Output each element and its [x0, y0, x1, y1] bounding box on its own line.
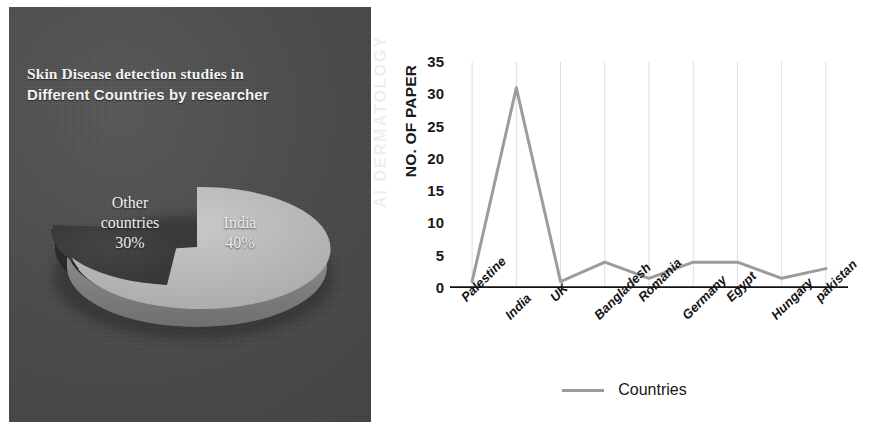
x-tick-india: India	[502, 291, 534, 323]
gridlines	[472, 62, 826, 288]
y-tick-25: 25	[416, 120, 444, 134]
pie-label-india: India 40%	[194, 213, 286, 253]
line-chart-plot-area	[450, 62, 848, 288]
pie-label-other-countries: Other countries 30%	[71, 193, 189, 253]
line-chart-svg	[450, 62, 848, 288]
pie-chart-panel: Skin Disease detection studies in Differ…	[9, 7, 371, 422]
legend-line-swatch	[562, 389, 604, 392]
y-tick-30: 30	[416, 87, 444, 101]
chart-legend: Countries	[380, 381, 869, 399]
figure-root: Skin Disease detection studies in Differ…	[0, 0, 869, 429]
pie-chart-title: Skin Disease detection studies in Differ…	[27, 63, 357, 105]
pie-label-other-name-1: Other	[71, 193, 189, 213]
pie-title-line-2: Different Countries by researcher	[27, 84, 357, 105]
pie-graphic: Other countries 30% India 40%	[9, 125, 371, 375]
y-axis-tick-labels: 05101520253035	[416, 62, 444, 288]
watermark-text: AI DERMATOLOGY	[372, 18, 402, 208]
line-chart-panel: AI DERMATOLOGY NO. OF PAPER 051015202530…	[380, 0, 869, 429]
y-tick-5: 5	[416, 249, 444, 263]
y-tick-10: 10	[416, 216, 444, 230]
legend-label-countries: Countries	[618, 381, 686, 399]
y-tick-35: 35	[416, 55, 444, 69]
x-axis-tick-labels: PalestineIndiaUKBangladeshRomaniaGermany…	[450, 290, 850, 375]
pie-label-india-name: India	[194, 213, 286, 233]
y-tick-20: 20	[416, 152, 444, 166]
y-tick-0: 0	[416, 281, 444, 295]
pie-label-other-value: 30%	[71, 233, 189, 253]
pie-label-other-name-2: countries	[71, 213, 189, 233]
pie-label-india-value: 40%	[194, 233, 286, 253]
pie-title-line-1: Skin Disease detection studies in	[27, 63, 357, 84]
pie-svg	[9, 125, 371, 375]
y-tick-15: 15	[416, 184, 444, 198]
